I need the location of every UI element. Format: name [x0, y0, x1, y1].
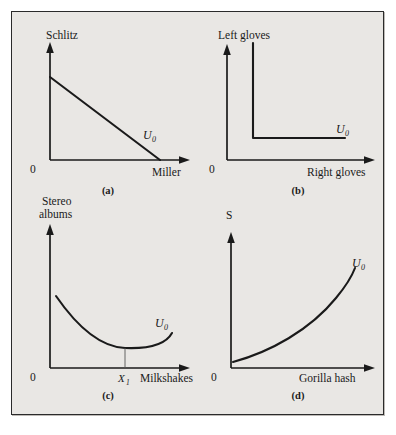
panel-c-y-axis-label-line1: Stereo	[42, 195, 72, 207]
panel-b-curve-label-subscript: 0	[345, 129, 349, 138]
panel-a: Schlitz U 0 0 Miller (a)	[30, 29, 190, 197]
panel-c-x-axis-label: Milkshakes	[140, 372, 194, 384]
panel-b-origin-label: 0	[209, 163, 215, 175]
panel-b-label: (b)	[292, 185, 305, 197]
panel-c-tick-label-x1-subscript: 1	[126, 378, 130, 387]
panel-d-curve-label-subscript: 0	[361, 263, 365, 272]
panel-c: Stereo albums U 0 0 X 1 Milkshakes (c)	[30, 195, 194, 402]
panel-a-curve-label-subscript: 0	[152, 135, 156, 144]
panel-a-curve-u0	[50, 77, 160, 160]
panel-b-y-axis-label: Left gloves	[218, 29, 271, 42]
panel-d-origin-label: 0	[211, 371, 217, 383]
panel-d: S U 0 0 Gorilla hash (d)	[211, 209, 375, 402]
panel-a-axes	[46, 42, 190, 164]
panel-d-y-axis-label: S	[226, 209, 232, 221]
panel-c-tick-label-x1: X	[117, 372, 126, 384]
panel-a-label: (a)	[102, 185, 115, 197]
panel-a-x-axis-label: Miller	[152, 166, 181, 178]
panel-a-y-axis-label: Schlitz	[46, 29, 78, 41]
panel-b-axes	[223, 44, 375, 164]
panel-c-y-axis-label-line2: albums	[39, 208, 73, 220]
panel-c-axes	[46, 224, 190, 372]
panel-c-curve-label-subscript: 0	[164, 323, 168, 332]
panel-d-x-axis-label: Gorilla hash	[299, 372, 356, 384]
panel-d-axes	[227, 232, 375, 372]
panel-d-curve-u0	[233, 268, 355, 362]
panel-c-origin-label: 0	[30, 371, 36, 383]
panel-a-origin-label: 0	[30, 163, 36, 175]
figure-panels: Schlitz U 0 0 Miller (a) Left gloves U 0…	[0, 0, 396, 435]
panel-b-curve-u0	[253, 43, 345, 138]
panel-b-x-axis-label: Right gloves	[307, 166, 366, 179]
panel-c-label: (c)	[102, 390, 114, 402]
panel-d-label: (d)	[292, 390, 305, 402]
panel-b: Left gloves U 0 0 Right gloves (b)	[209, 29, 375, 197]
